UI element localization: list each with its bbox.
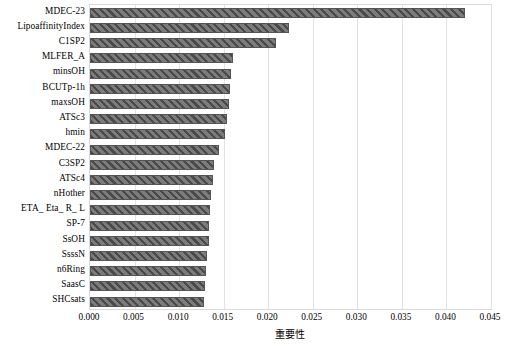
- y-tick-label: nHother: [0, 188, 85, 198]
- y-tick-label: ETA_ Eta_ R_ L: [0, 203, 85, 213]
- y-tick-label: minsOH: [0, 66, 85, 76]
- bar[interactable]: [90, 190, 211, 200]
- bar[interactable]: [90, 251, 207, 261]
- bar[interactable]: [90, 145, 219, 155]
- bar[interactable]: [90, 38, 276, 48]
- bar[interactable]: [90, 281, 205, 291]
- x-tick-label: 0.035: [390, 311, 411, 323]
- y-tick-label: SaasC: [0, 279, 85, 289]
- bar[interactable]: [90, 69, 231, 79]
- bars-layer: [90, 5, 491, 309]
- y-tick-label: ATSc4: [0, 173, 85, 183]
- y-tick-label: SHCsats: [0, 294, 85, 304]
- y-tick-label: MDEC-23: [0, 6, 85, 16]
- bar[interactable]: [90, 266, 206, 276]
- gridline: [491, 5, 492, 309]
- bar[interactable]: [90, 236, 209, 246]
- y-tick-label: ATSc3: [0, 112, 85, 122]
- bar[interactable]: [90, 53, 233, 63]
- bar[interactable]: [90, 175, 213, 185]
- x-tick-label: 0.015: [212, 311, 233, 323]
- x-tick-label: 0.005: [123, 311, 144, 323]
- y-tick-label: SP-7: [0, 218, 85, 228]
- bar[interactable]: [90, 84, 230, 94]
- y-tick-label: SsssN: [0, 249, 85, 259]
- y-tick-label: n6Ring: [0, 264, 85, 274]
- y-tick-label: SsOH: [0, 234, 85, 244]
- bar[interactable]: [90, 8, 465, 18]
- y-tick-label: maxsOH: [0, 97, 85, 107]
- x-tick-label: 0.000: [79, 311, 100, 323]
- x-tick-label: 0.030: [346, 311, 367, 323]
- bar[interactable]: [90, 23, 289, 33]
- x-tick-label: 0.010: [168, 311, 189, 323]
- bar[interactable]: [90, 205, 210, 215]
- x-tick-label: 0.040: [435, 311, 456, 323]
- x-axis-title: 重要性: [89, 328, 490, 341]
- y-tick-label: MDEC-22: [0, 142, 85, 152]
- bar[interactable]: [90, 114, 227, 124]
- y-tick-label: BCUTp-1h: [0, 82, 85, 92]
- y-tick-label: hmin: [0, 127, 85, 137]
- y-tick-label: MLFER_A: [0, 51, 85, 61]
- x-tick-label: 0.025: [301, 311, 322, 323]
- x-tick-label: 0.045: [480, 311, 501, 323]
- x-tick-label: 0.020: [257, 311, 278, 323]
- y-tick-label: C1SP2: [0, 36, 85, 46]
- bar[interactable]: [90, 297, 204, 307]
- bar[interactable]: [90, 221, 209, 231]
- bar[interactable]: [90, 129, 225, 139]
- plot-area: [89, 4, 492, 310]
- x-axis-tick-labels: 0.0000.0050.0100.0150.0200.0250.0300.035…: [0, 311, 505, 327]
- y-tick-label: C3SP2: [0, 158, 85, 168]
- feature-importance-bar-chart: MDEC-23LipoaffinityIndexC1SP2MLFER_Amins…: [0, 0, 505, 350]
- y-axis-tick-labels: MDEC-23LipoaffinityIndexC1SP2MLFER_Amins…: [0, 4, 85, 308]
- bar[interactable]: [90, 99, 229, 109]
- bar[interactable]: [90, 160, 214, 170]
- y-tick-label: LipoaffinityIndex: [0, 21, 85, 31]
